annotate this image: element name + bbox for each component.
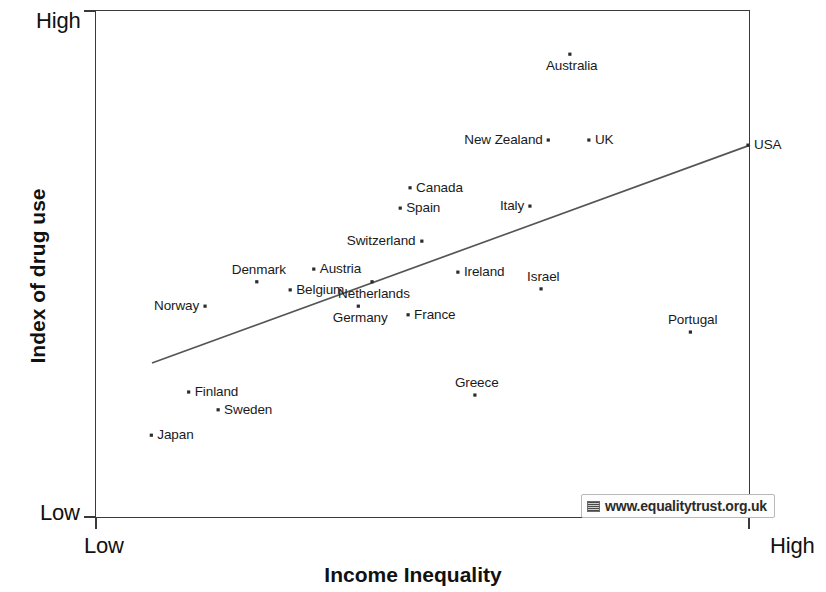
x-axis-tick-low bbox=[95, 518, 97, 529]
data-point-label: Italy bbox=[500, 199, 524, 213]
data-point-label: Denmark bbox=[232, 263, 286, 277]
data-point-label: Ireland bbox=[464, 265, 505, 279]
data-point-label: Austria bbox=[320, 262, 361, 276]
website-thumbnail-icon bbox=[587, 501, 600, 512]
data-point-label: Israel bbox=[527, 270, 559, 284]
data-point-label: New Zealand bbox=[464, 133, 542, 147]
x-axis-label-low: Low bbox=[84, 533, 124, 559]
y-axis-tick-high bbox=[84, 10, 95, 12]
data-point-label: Switzerland bbox=[347, 234, 416, 248]
y-axis-title: Index of drug use bbox=[26, 56, 50, 496]
x-axis-title: Income Inequality bbox=[0, 563, 826, 587]
data-point-label: Norway bbox=[154, 299, 199, 313]
data-point-label: Greece bbox=[455, 376, 499, 390]
data-point-label: Sweden bbox=[224, 403, 272, 417]
data-point-label: Finland bbox=[195, 385, 239, 399]
data-point-label: UK bbox=[595, 133, 614, 147]
data-point-label: USA bbox=[754, 138, 781, 152]
data-point-label: Australia bbox=[546, 59, 598, 73]
watermark-url: www.equalitytrust.org.uk bbox=[605, 498, 767, 514]
data-point-label: Canada bbox=[416, 181, 463, 195]
data-point-label: Spain bbox=[406, 201, 440, 215]
watermark-badge[interactable]: www.equalitytrust.org.uk bbox=[581, 494, 775, 518]
y-axis-tick-low bbox=[84, 516, 95, 518]
data-point-label: Japan bbox=[157, 428, 193, 442]
scatter-chart: High Low Low High Income Inequality Inde… bbox=[0, 0, 826, 592]
y-axis-label-high: High bbox=[36, 8, 80, 34]
data-point-label: Netherlands bbox=[338, 287, 410, 301]
data-point-label: Germany bbox=[333, 311, 388, 325]
x-axis-label-high: High bbox=[770, 533, 814, 559]
data-point-label: Portugal bbox=[668, 313, 717, 327]
data-point-label: France bbox=[414, 308, 455, 322]
data-point-label: Belgium bbox=[296, 283, 344, 297]
x-axis-tick-high bbox=[748, 518, 750, 529]
y-axis-label-low: Low bbox=[40, 500, 80, 526]
